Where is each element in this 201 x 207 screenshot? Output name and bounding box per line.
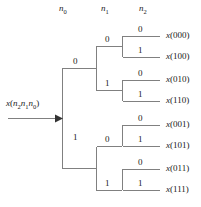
- output-label-111: x(111): [166, 185, 189, 194]
- figure-canvas: n0 n1 n2 x(n2n1n0) 0 1 0 1 0 1 0 1 0 1 0…: [0, 0, 201, 207]
- bit-label-n0-0: 0: [73, 57, 78, 66]
- output-label-010: x(010): [166, 75, 190, 84]
- bit-label-n1-11: 1: [105, 179, 110, 188]
- bit-label-n1-01: 1: [105, 79, 110, 88]
- header-n1: n1: [101, 4, 109, 15]
- input-label: x(n2n1n0): [6, 99, 39, 110]
- bit-label-n2-000: 0: [138, 25, 143, 34]
- bit-label-n2-011: 0: [138, 158, 143, 167]
- header-n1-sub: 1: [106, 8, 109, 15]
- bit-label-n2-001: 0: [138, 114, 143, 123]
- bit-label-n0-1: 1: [73, 133, 78, 142]
- output-label-100: x(100): [166, 52, 190, 61]
- header-n0: n0: [59, 4, 67, 15]
- output-label-110: x(110): [166, 96, 189, 105]
- header-n0-sub: 0: [64, 8, 67, 15]
- bit-label-n2-111: 1: [138, 179, 143, 188]
- bit-label-n2-100: 1: [138, 46, 143, 55]
- output-label-101: x(101): [166, 141, 190, 150]
- header-n2: n2: [139, 4, 147, 15]
- bit-label-n2-110: 1: [138, 90, 143, 99]
- bit-label-n2-010: 0: [138, 69, 143, 78]
- bit-label-n1-10: 0: [105, 135, 110, 144]
- header-n2-sub: 2: [144, 8, 147, 15]
- bit-label-n2-101: 1: [138, 135, 143, 144]
- bit-label-n1-00: 0: [105, 35, 110, 44]
- input-arrowhead: [55, 115, 63, 123]
- output-label-001: x(001): [166, 120, 190, 129]
- output-label-000: x(000): [166, 31, 190, 40]
- output-label-011: x(011): [166, 164, 189, 173]
